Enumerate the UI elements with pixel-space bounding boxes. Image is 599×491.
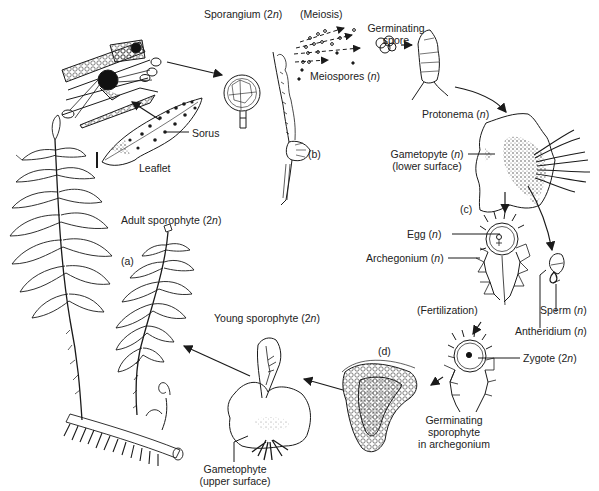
germinating-sporophyte-label: Germinating sporophyte in archegonium: [406, 414, 502, 450]
germinating-spore-label-line1: Germinating: [365, 22, 427, 34]
marker-b: (b): [308, 148, 321, 160]
marker-d: (d): [378, 345, 391, 357]
germinating-sporophyte-label-line3: in archegonium: [406, 438, 502, 450]
archegonium-label: Archegonium (n): [366, 252, 444, 264]
gametophyte-upper-label: Gametophyte (upper surface): [196, 463, 274, 487]
germinating-sporophyte-label-line2: sporophyte: [406, 426, 502, 438]
leaflet-drawing: [97, 98, 202, 168]
gametopyte-lower-label: Gametopyte (n) (lower surface): [384, 148, 470, 172]
archegonium-drawing: [476, 212, 530, 305]
egg-label: Egg (n): [407, 228, 441, 240]
arrow-zygote-to-germinating: [431, 377, 443, 385]
arrow-sorus-to-sporangium: [167, 62, 222, 75]
gametophyte-upper-pointer-h: [234, 436, 248, 442]
sperm-label: Sperm (n): [540, 304, 587, 316]
marker-c: (c): [460, 203, 472, 215]
young-sporophyte-drawing: [228, 338, 311, 460]
germinating-spore-label-line2: spore: [365, 34, 427, 46]
sporangium-drawing: [224, 75, 260, 128]
arrow-young-to-adult: [184, 346, 250, 376]
young-sporophyte-label: Young sporophyte (2n): [214, 312, 320, 324]
fertilization-label: (Fertilization): [417, 304, 478, 316]
germinating-spore-label: Germinating spore: [365, 22, 427, 46]
zygote-label: Zygote (2n): [523, 352, 577, 364]
meiospores-label: Meiospores (n): [310, 70, 380, 82]
dehiscing-sporangium-drawing: [273, 52, 310, 205]
antheridium-pointer: [540, 270, 546, 328]
meiosis-label: (Meiosis): [300, 8, 343, 20]
gametophyte-upper-label-line2: (upper surface): [196, 475, 274, 487]
sorus-cross-section: [62, 40, 161, 128]
gametophyte-lower-drawing: [476, 114, 590, 212]
adult-sporophyte-label: Adult sporophyte (2n): [121, 214, 221, 226]
protonema-label: Protonema (n): [422, 108, 489, 120]
arrow-germinating-to-young: [304, 379, 343, 390]
gametopyte-lower-label-line1: Gametopyte (n): [384, 148, 470, 160]
germinating-sporophyte-label-line1: Germinating: [406, 414, 502, 426]
leaflet-label: Leaflet: [139, 162, 171, 174]
sporangium-label: Sporangium (2n): [204, 8, 282, 20]
zygote-drawing: [444, 330, 496, 412]
sorus-label: Sorus: [192, 127, 219, 139]
gametopyte-lower-label-line2: (lower surface): [384, 160, 470, 172]
fern-life-cycle-illustration: [0, 0, 599, 491]
marker-a: (a): [121, 255, 134, 267]
antheridium-label: Antheridium (n): [515, 325, 587, 337]
gametophyte-upper-label-line1: Gametophyte: [196, 463, 274, 475]
antheridium-drawing: [549, 254, 564, 283]
